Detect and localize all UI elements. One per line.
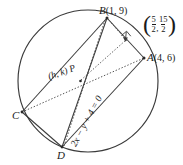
point-label-b: B(1, 9) [99,5,127,16]
circle-outline [18,10,158,152]
point-dot-b [106,17,109,20]
midpoint-second-fraction: 15 2 [159,15,169,34]
dotted-chord-ca [22,58,144,112]
point-dot-c [21,111,24,114]
point-dot-d [61,146,64,149]
point-b-coords: (1, 9) [106,5,128,16]
point-label-c: C [12,110,19,121]
midpoint-second-denominator: 2 [161,24,165,34]
midpoint-open-paren: ( [143,16,151,33]
midpoint-close-paren: ) [168,16,176,33]
midpoint-annotation: ( 5 2 , 15 2 ) [143,15,176,34]
midpoint-second-numerator: 15 [159,15,168,24]
circle-geometry-figure: B(1, 9) A(4, 6) C D (h, k) P ( 5 2 , 15 … [0,0,183,165]
point-a-coords: (4, 6) [154,52,176,63]
point-b-name: B [99,4,106,16]
chord-cd [22,112,62,147]
point-dot-p [79,80,82,83]
point-dot-a [143,57,146,60]
point-a-name: A [147,51,154,63]
midpoint-first-denominator: 2 [152,24,156,34]
point-label-d: D [57,150,65,161]
point-label-a: A(4, 6) [147,52,175,63]
midpoint-first-numerator: 5 [152,15,156,24]
